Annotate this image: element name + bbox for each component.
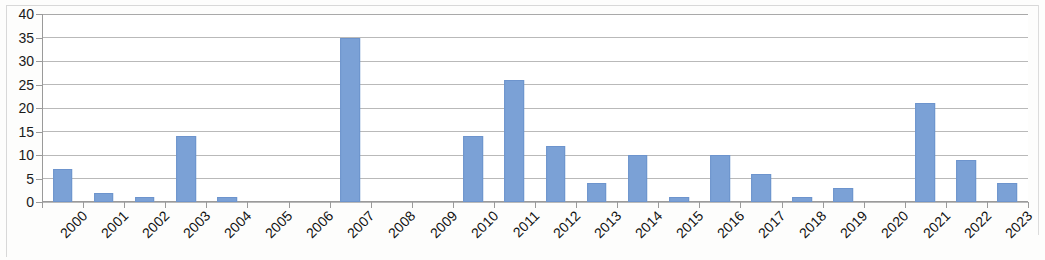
bar-slot	[165, 14, 206, 202]
bar	[53, 169, 73, 202]
bar-slot	[124, 14, 165, 202]
bar-slot	[412, 14, 453, 202]
x-axis-tick-label: 2008	[386, 208, 419, 241]
bar-slot	[330, 14, 371, 202]
bar-slot	[699, 14, 740, 202]
x-axis-tick-label: 2003	[180, 208, 213, 241]
bar	[546, 146, 566, 202]
bar	[464, 136, 484, 202]
y-axis-tick-label: 5	[0, 172, 34, 186]
bar-chart: 0510152025303540 20002001200220032004200…	[0, 0, 1045, 260]
x-axis-tick-labels: 2000200120022003200420052006200720082009…	[42, 208, 1028, 258]
bar-slot	[289, 14, 330, 202]
x-axis-tick-label: 2009	[427, 208, 460, 241]
bar-slot	[782, 14, 823, 202]
bar	[176, 136, 196, 202]
y-axis-tick-label: 15	[0, 125, 34, 139]
bar-slot	[740, 14, 781, 202]
bar-series	[42, 14, 1028, 202]
bar	[505, 80, 525, 202]
x-axis-tick-label: 2005	[263, 208, 296, 241]
bar-slot	[617, 14, 658, 202]
bar-slot	[905, 14, 946, 202]
bar-slot	[371, 14, 412, 202]
bar-slot	[576, 14, 617, 202]
bar-slot	[946, 14, 987, 202]
x-axis-tick-label: 2011	[510, 208, 542, 240]
y-axis-tick-label: 30	[0, 54, 34, 68]
x-axis-tick-label: 2015	[673, 208, 706, 241]
x-axis-tick-label: 2018	[797, 208, 830, 241]
bar-slot	[823, 14, 864, 202]
x-axis-tick-label: 2006	[304, 208, 337, 241]
bar	[340, 38, 360, 203]
bar-slot	[535, 14, 576, 202]
x-axis-tick-label: 2017	[756, 208, 789, 241]
x-axis-tick-label: 2014	[632, 208, 665, 241]
x-axis-tick-label: 2002	[139, 208, 172, 241]
bar	[833, 188, 853, 202]
x-axis-tick-label: 2007	[345, 208, 378, 241]
x-axis-tick-label: 2022	[961, 208, 994, 241]
bar-slot	[987, 14, 1028, 202]
bar	[628, 155, 648, 202]
bar-slot	[42, 14, 83, 202]
x-axis-tick-label: 2021	[920, 208, 953, 241]
bar-slot	[864, 14, 905, 202]
y-axis-tick-label: 40	[0, 7, 34, 21]
bar	[915, 103, 935, 202]
y-axis-tick-label: 20	[0, 101, 34, 115]
bar-slot	[206, 14, 247, 202]
y-axis-tick-label: 35	[0, 31, 34, 45]
bar	[998, 183, 1018, 202]
bar-slot	[83, 14, 124, 202]
chart-screenshot: 0510152025303540 20002001200220032004200…	[0, 0, 1045, 260]
bar-slot	[494, 14, 535, 202]
bar	[957, 160, 977, 202]
x-axis-tick-label: 2004	[222, 208, 255, 241]
bar	[710, 155, 730, 202]
y-axis-tick-label: 25	[0, 78, 34, 92]
x-axis-tick-label: 2012	[550, 208, 583, 241]
x-axis-tick-label: 2023	[1002, 208, 1035, 241]
x-axis-tick-label: 2010	[468, 208, 501, 241]
x-axis-tick-label: 2016	[715, 208, 748, 241]
x-axis-tick-label: 2000	[57, 208, 90, 241]
bar-slot	[658, 14, 699, 202]
bar-slot	[247, 14, 288, 202]
x-axis-tick-label: 2001	[98, 208, 131, 241]
x-axis-tick-label: 2020	[879, 208, 912, 241]
y-axis-tick-label: 0	[0, 195, 34, 209]
bar	[94, 193, 114, 202]
bar	[751, 174, 771, 202]
x-axis-tick	[1028, 202, 1029, 208]
y-axis-tick-labels: 0510152025303540	[0, 0, 34, 260]
bar	[587, 183, 607, 202]
x-axis-tick-label: 2013	[591, 208, 624, 241]
x-axis-tick-label: 2019	[838, 208, 871, 241]
bar-slot	[453, 14, 494, 202]
y-axis-tick-label: 10	[0, 148, 34, 162]
